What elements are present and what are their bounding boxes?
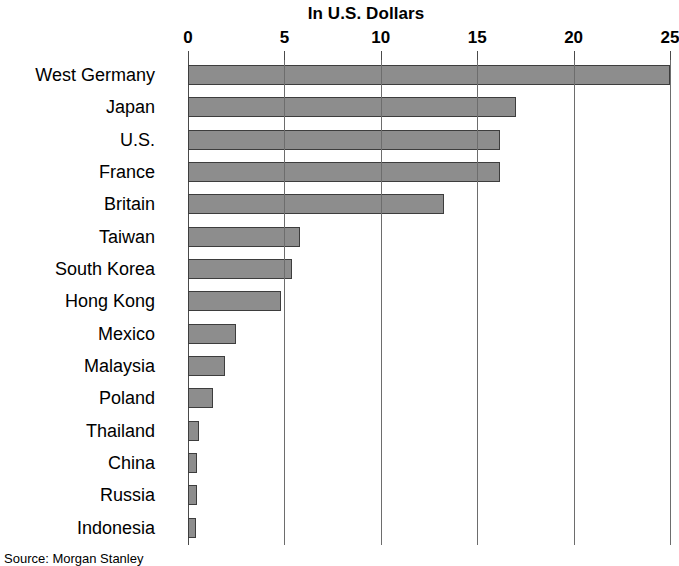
- category-label-britain: Britain: [104, 189, 155, 221]
- category-label-russia: Russia: [100, 480, 155, 512]
- bars-group: [188, 60, 670, 545]
- x-tick-label-25: 25: [661, 28, 679, 48]
- category-label-west-germany: West Germany: [35, 60, 155, 92]
- bar-row: [188, 60, 670, 92]
- category-label-indonesia: Indonesia: [77, 513, 155, 545]
- bar-russia: [188, 485, 197, 505]
- bar-row: [188, 222, 670, 254]
- bar-japan: [188, 97, 516, 117]
- category-label-taiwan: Taiwan: [99, 222, 155, 254]
- bar-row: [188, 92, 670, 124]
- bar-poland: [188, 388, 213, 408]
- bar-row: [188, 416, 670, 448]
- x-tick-mark-0: [188, 51, 189, 60]
- x-tick-label-0: 0: [183, 28, 192, 48]
- category-label-thailand: Thailand: [86, 416, 155, 448]
- bar-taiwan: [188, 227, 300, 247]
- bar-row: [188, 480, 670, 512]
- category-label-hong-kong: Hong Kong: [65, 286, 155, 318]
- x-tick-label-5: 5: [280, 28, 289, 48]
- bar-china: [188, 453, 197, 473]
- x-tick-label-20: 20: [564, 28, 583, 48]
- category-label-u-s-: U.S.: [120, 125, 155, 157]
- category-label-japan: Japan: [106, 92, 155, 124]
- bar-britain: [188, 194, 444, 214]
- source-note: Source: Morgan Stanley: [4, 551, 143, 566]
- bar-france: [188, 162, 500, 182]
- bar-hong-kong: [188, 291, 281, 311]
- gridline-10: [381, 60, 382, 545]
- bar-row: [188, 286, 670, 318]
- bar-row: [188, 513, 670, 545]
- bar-south-korea: [188, 259, 292, 279]
- bar-row: [188, 383, 670, 415]
- gridline-25: [670, 60, 671, 545]
- bar-row: [188, 189, 670, 221]
- plot-area: [188, 60, 670, 545]
- bar-thailand: [188, 421, 199, 441]
- x-tick-mark-15: [477, 51, 478, 60]
- bar-mexico: [188, 324, 236, 344]
- bar-west-germany: [188, 65, 670, 85]
- x-tick-mark-20: [574, 51, 575, 60]
- bar-row: [188, 157, 670, 189]
- chart-title: In U.S. Dollars: [0, 4, 674, 24]
- bar-row: [188, 319, 670, 351]
- x-tick-mark-5: [284, 51, 285, 60]
- x-tick-label-15: 15: [468, 28, 487, 48]
- category-label-mexico: Mexico: [98, 319, 155, 351]
- gridline-5: [284, 60, 285, 545]
- bar-row: [188, 448, 670, 480]
- x-tick-mark-10: [381, 51, 382, 60]
- gridline-15: [477, 60, 478, 545]
- bar-indonesia: [188, 518, 196, 538]
- category-axis-labels: West GermanyJapanU.S.FranceBritainTaiwan…: [0, 60, 163, 545]
- category-label-china: China: [108, 448, 155, 480]
- category-label-france: France: [99, 157, 155, 189]
- category-label-malaysia: Malaysia: [84, 351, 155, 383]
- x-tick-label-10: 10: [371, 28, 390, 48]
- bar-row: [188, 351, 670, 383]
- bar-u-s-: [188, 130, 500, 150]
- category-label-poland: Poland: [99, 383, 155, 415]
- bar-malaysia: [188, 356, 225, 376]
- gridline-20: [574, 60, 575, 545]
- x-tick-mark-25: [670, 51, 671, 60]
- bar-row: [188, 254, 670, 286]
- category-label-south-korea: South Korea: [55, 254, 155, 286]
- x-axis-tick-labels: 0510152025: [0, 28, 674, 50]
- bar-row: [188, 125, 670, 157]
